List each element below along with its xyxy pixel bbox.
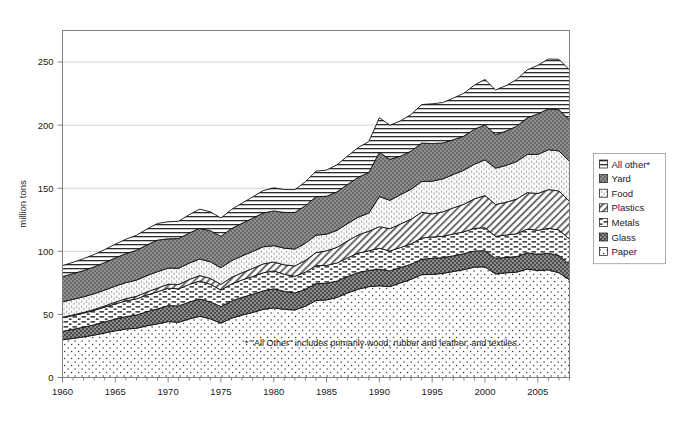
x-tick-label: 2000 (474, 386, 495, 397)
y-tick-label: 200 (38, 120, 54, 131)
y-tick-label: 250 (38, 56, 54, 67)
legend-swatch-all-other- (600, 160, 608, 168)
x-tick-label: 1970 (158, 386, 179, 397)
legend-label-paper[interactable]: Paper (612, 246, 637, 257)
legend-swatch-metals (600, 218, 608, 226)
y-tick-label: 150 (38, 183, 54, 194)
x-tick-label: 1990 (369, 386, 390, 397)
x-tick-label: 1965 (105, 386, 126, 397)
legend-label-plastics[interactable]: Plastics (612, 202, 645, 213)
stacked-area-chart: 050100150200250 196019651970197519801985… (0, 0, 673, 424)
y-tick-label: 0 (48, 372, 53, 383)
legend-swatch-plastics (600, 204, 608, 212)
y-tick-label: 100 (38, 246, 54, 257)
x-tick-label: 1995 (422, 386, 443, 397)
y-axis-title: million tons (17, 180, 28, 228)
legend-label-all-other-[interactable]: All other* (612, 159, 651, 170)
all-other-footnote: * "All Other" includes primarily wood, r… (245, 338, 520, 348)
x-tick-label: 1960 (52, 386, 73, 397)
legend-label-glass[interactable]: Glass (612, 232, 637, 243)
chart-root: 050100150200250 196019651970197519801985… (0, 0, 673, 424)
legend-label-metals[interactable]: Metals (612, 217, 640, 228)
chart-legend: All other*YardFoodPlasticsMetalsGlassPap… (594, 154, 666, 264)
legend-swatch-yard (600, 175, 608, 183)
y-tick-label: 50 (43, 309, 54, 320)
x-tick-label: 1980 (263, 386, 284, 397)
legend-swatch-glass (600, 233, 608, 241)
legend-swatch-food (600, 189, 608, 197)
legend-label-food[interactable]: Food (612, 188, 634, 199)
x-tick-label: 2005 (527, 386, 548, 397)
x-tick-label: 1985 (316, 386, 337, 397)
x-tick-label: 1975 (210, 386, 231, 397)
legend-swatch-paper (600, 248, 608, 256)
legend-label-yard[interactable]: Yard (612, 173, 631, 184)
